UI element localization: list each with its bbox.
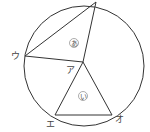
region-a-label: あ bbox=[71, 40, 78, 48]
point-o-label: オ bbox=[115, 114, 124, 124]
geometry-diagram: あ い ア ウ エ オ bbox=[0, 0, 150, 132]
radius-a-u bbox=[25, 56, 83, 62]
point-u-label: ウ bbox=[11, 51, 20, 61]
region-i-label: い bbox=[80, 93, 87, 101]
point-e-label: エ bbox=[46, 119, 55, 129]
point-a-label: ア bbox=[66, 65, 75, 75]
radius-a-o bbox=[83, 62, 112, 115]
circle bbox=[24, 6, 144, 126]
chord-top-u bbox=[25, 2, 96, 56]
